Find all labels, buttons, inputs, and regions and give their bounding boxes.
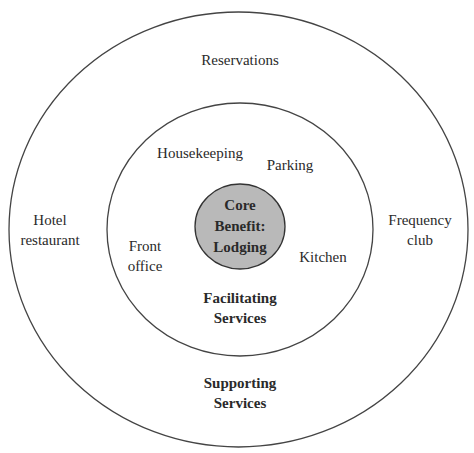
facilitating-services-title: Facilitating Services — [185, 288, 295, 328]
core-line-3: Lodging — [190, 237, 290, 258]
facilitating-item-kitchen: Kitchen — [290, 247, 356, 267]
core-line-2: Benefit: — [190, 216, 290, 237]
supporting-item-reservations: Reservations — [180, 50, 300, 70]
supporting-item-hotel-restaurant: Hotel restaurant — [10, 210, 90, 250]
supporting-item-frequency-club: Frequency club — [375, 210, 465, 250]
facilitating-item-housekeeping: Housekeeping — [145, 143, 255, 163]
supporting-services-title: Supporting Services — [180, 373, 300, 413]
facilitating-item-parking: Parking — [255, 155, 325, 175]
core-line-1: Core — [190, 195, 290, 216]
facilitating-item-front-office: Front office — [115, 236, 175, 276]
core-benefit-label: Core Benefit: Lodging — [190, 195, 290, 258]
